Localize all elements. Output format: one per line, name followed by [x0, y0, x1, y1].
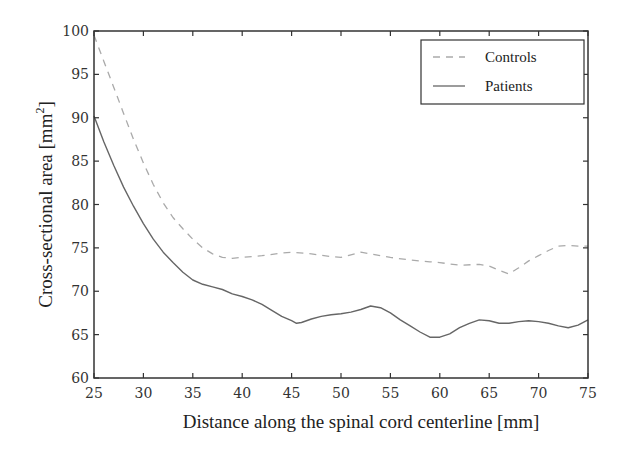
y-tick-label: 75 [71, 240, 89, 256]
x-tick-label: 50 [332, 385, 350, 401]
legend: Controls Patients [421, 40, 584, 104]
x-axis-title: Distance along the spinal cord centerlin… [183, 411, 540, 432]
x-tick-label: 45 [283, 385, 301, 401]
y-tick-label: 95 [71, 66, 89, 82]
x-tick-label: 55 [381, 385, 399, 401]
y-axis-title-main: Cross-sectional area [mm [35, 113, 56, 307]
x-tick-label: 60 [431, 385, 449, 401]
legend-label-patients: Patients [485, 78, 533, 94]
y-tick-label: 70 [71, 283, 89, 299]
x-tick-label: 65 [480, 385, 498, 401]
line-chart: 2530354045505560657075606570758085909510… [0, 0, 625, 451]
series-line-patients [94, 116, 588, 337]
legend-label-controls: Controls [485, 49, 537, 65]
y-tick-label: 90 [71, 110, 89, 126]
y-tick-label: 85 [71, 153, 89, 169]
x-tick-label: 30 [134, 385, 152, 401]
y-tick-label: 65 [71, 327, 89, 343]
y-axis-title-suffix: ] [35, 101, 56, 107]
x-tick-label: 70 [530, 385, 548, 401]
y-tick-label: 80 [71, 197, 89, 213]
x-tick-label: 25 [85, 385, 103, 401]
x-tick-label: 75 [579, 385, 597, 401]
y-tick-label: 60 [71, 370, 89, 386]
y-axis-title: Cross-sectional area [mm2] [33, 101, 56, 307]
x-tick-label: 35 [184, 385, 202, 401]
y-tick-label: 100 [62, 23, 89, 39]
x-tick-label: 40 [233, 385, 251, 401]
